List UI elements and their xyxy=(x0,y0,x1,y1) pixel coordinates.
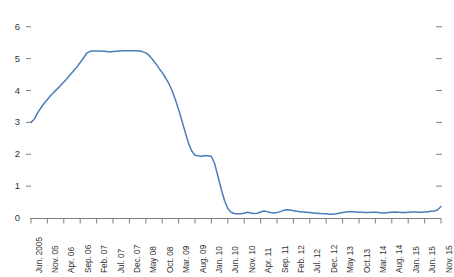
x-axis-tick-label: Sep. 11 xyxy=(281,245,290,273)
x-axis-tick-label: Jun. 15 xyxy=(428,246,437,273)
x-axis-tick-label: Oct.13 xyxy=(363,249,372,273)
y-axis-tick-label: 1 xyxy=(4,181,20,191)
x-axis-tick-label: Aug. 09 xyxy=(199,245,208,273)
x-axis-tick-label: Jun. 2005 xyxy=(35,237,44,273)
x-axis-tick-marks xyxy=(31,219,441,224)
x-axis-tick-label: Mar. 14 xyxy=(379,246,388,273)
x-axis-tick-label: Jul. 12 xyxy=(313,249,322,273)
y-axis-tick-label: 0 xyxy=(4,213,20,223)
y-axis-tick-marks xyxy=(26,27,31,186)
x-axis-tick-label: Jan. 15 xyxy=(412,246,421,273)
y-axis-tick-label: 4 xyxy=(4,86,20,96)
x-axis-tick-label: Apr. 11 xyxy=(264,248,273,273)
x-axis-tick-label: Apr. 06 xyxy=(67,247,76,273)
y-axis-tick-label: 5 xyxy=(4,54,20,64)
y-axis-tick-label: 2 xyxy=(4,149,20,159)
x-axis-tick-label: Jun. 10 xyxy=(231,246,240,273)
x-axis-tick-label: Oct. 08 xyxy=(166,247,175,273)
right-axis-tick-marks xyxy=(436,27,442,186)
x-axis-tick-label: Dec. 12 xyxy=(330,245,339,273)
x-axis-tick-label: May 13 xyxy=(346,246,355,273)
x-axis-tick-label: Jul. 07 xyxy=(117,249,126,273)
x-axis-tick-label: Sep. 06 xyxy=(84,245,93,273)
y-axis-tick-label: 3 xyxy=(4,117,20,127)
x-axis-tick-label: Feb. 12 xyxy=(297,245,306,273)
y-axis-tick-label: 6 xyxy=(4,22,20,32)
x-axis-tick-label: Aug. 14 xyxy=(395,245,404,273)
x-axis-tick-label: Nov. 05 xyxy=(51,245,60,273)
data-series-line xyxy=(31,51,441,215)
x-axis-tick-label: May 08 xyxy=(149,246,158,273)
x-axis-tick-label: Mar. 09 xyxy=(182,246,191,273)
x-axis-tick-label: Nov. 15 xyxy=(445,245,454,273)
x-axis-tick-label: Jan. 10 xyxy=(215,246,224,273)
x-axis-tick-label: Nov. 10 xyxy=(248,245,257,273)
x-axis-tick-label: Dec. 07 xyxy=(133,245,142,273)
x-axis-tick-label: Feb. 07 xyxy=(100,245,109,273)
